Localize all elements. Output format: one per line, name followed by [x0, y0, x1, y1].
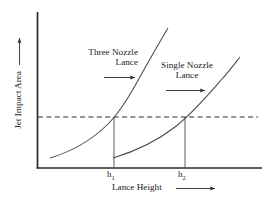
annotation-three-nozzle-line1: Three Nozzle	[88, 47, 138, 57]
tick-label-h1: h1	[107, 170, 115, 182]
annotation-single-nozzle-line2: Lance	[176, 70, 198, 80]
y-axis-title: Jet Impact Area	[14, 58, 24, 142]
tick-label-h1-subscript: 1	[112, 174, 115, 181]
tick-label-h2-subscript: 2	[183, 174, 186, 181]
plot-canvas	[0, 0, 279, 204]
lance-height-jet-impact-area-diagram: Three Nozzle Lance Single Nozzle Lance J…	[0, 0, 279, 204]
annotation-three-nozzle-lance: Three Nozzle Lance	[72, 48, 138, 68]
annotation-single-nozzle-lance: Single Nozzle Lance	[152, 61, 222, 81]
annotation-three-nozzle-line2: Lance	[116, 57, 138, 67]
annotation-single-nozzle-line1: Single Nozzle	[161, 60, 213, 70]
x-axis-title: Lance Height	[112, 183, 162, 193]
tick-label-h2: h2	[178, 170, 186, 182]
